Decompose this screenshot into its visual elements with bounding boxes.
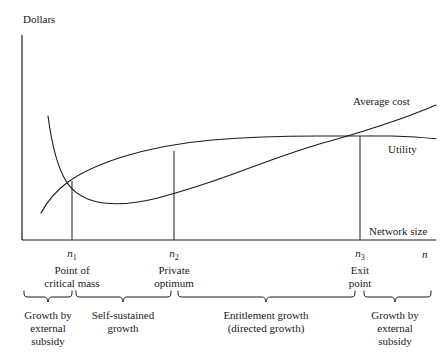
- region-4-line1: Growth by: [371, 309, 418, 322]
- n2-caption-line1: Private: [158, 264, 189, 277]
- x-axis-variable-label: n: [422, 248, 428, 261]
- n2-caption-line2: optimum: [154, 277, 194, 290]
- utility-label: Utility: [388, 143, 417, 156]
- n3-tick-label: n3: [355, 247, 365, 261]
- n2-tick-sub: 2: [175, 253, 179, 262]
- brace-region-3: [178, 291, 355, 302]
- n3-tick-base: n: [355, 247, 361, 259]
- region-2-line1: Self-sustained: [92, 309, 154, 322]
- network-economics-figure: Dollars Network size n Average cost Util…: [0, 0, 447, 362]
- n1-caption-line1: Point of: [54, 264, 89, 277]
- brace-region-4: [364, 291, 431, 302]
- region-3-line1: Entitlement growth: [223, 309, 308, 322]
- n1-tick-sub: 1: [73, 253, 77, 262]
- n3-tick-sub: 3: [361, 253, 365, 262]
- average-cost-curve: [48, 105, 436, 204]
- utility-curve: [41, 136, 436, 213]
- n1-caption-line2: critical mass: [44, 277, 99, 290]
- y-axis-title: Dollars: [23, 13, 55, 26]
- brace-region-1: [24, 291, 72, 302]
- n2-tick-base: n: [169, 247, 175, 259]
- n3-caption-line1: Exit: [351, 264, 369, 277]
- region-1-line3: subsidy: [31, 335, 65, 348]
- brace-region-2: [76, 291, 171, 302]
- region-3-line2: (directed growth): [228, 322, 305, 335]
- figure-canvas: [0, 0, 447, 362]
- n3-caption-line2: point: [349, 277, 372, 290]
- region-2-line2: growth: [107, 322, 138, 335]
- region-1-line1: Growth by: [24, 309, 71, 322]
- n1-tick-label: n1: [67, 247, 77, 261]
- n2-tick-label: n2: [169, 247, 179, 261]
- region-4-line3: subsidy: [378, 335, 412, 348]
- region-1-line2: external: [30, 322, 65, 335]
- n1-tick-base: n: [67, 247, 73, 259]
- x-axis-title: Network size: [369, 225, 427, 238]
- average-cost-label: Average cost: [353, 95, 410, 108]
- region-4-line2: external: [377, 322, 412, 335]
